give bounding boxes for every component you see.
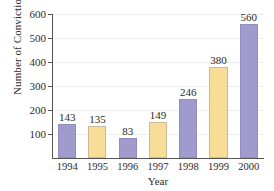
x-axis-title: Year xyxy=(52,175,264,187)
bar: 149 xyxy=(149,122,167,158)
x-tick-label: 1998 xyxy=(178,161,199,172)
gridline xyxy=(52,86,264,87)
bar-value-label: 143 xyxy=(59,111,76,123)
bar: 135 xyxy=(88,126,106,158)
x-tick-label: 1994 xyxy=(57,161,78,172)
y-tick-label: 500 xyxy=(30,32,47,44)
bar: 83 xyxy=(119,138,137,158)
gridline xyxy=(52,62,264,63)
y-tick-label: 300 xyxy=(30,80,47,92)
y-axis-line xyxy=(52,14,53,158)
bar: 380 xyxy=(209,67,227,158)
x-tick-label: 1999 xyxy=(208,161,229,172)
x-axis-line xyxy=(52,158,264,159)
bar-value-label: 149 xyxy=(150,109,167,121)
y-axis-title: Number of Convictions xyxy=(11,0,23,107)
bar: 246 xyxy=(179,99,197,158)
bar-chart-figure: Number of Convictions 100200300400500600… xyxy=(0,0,274,191)
y-tick-label: 100 xyxy=(30,128,47,140)
bar: 560 xyxy=(240,24,258,158)
bar-value-label: 380 xyxy=(210,54,227,66)
gridline xyxy=(52,14,264,15)
y-tick-label: 400 xyxy=(30,56,47,68)
y-tick-label: 600 xyxy=(30,8,47,20)
bar-value-label: 560 xyxy=(241,11,258,23)
x-tick-label: 1997 xyxy=(148,161,169,172)
y-tick-label: 200 xyxy=(30,104,47,116)
bar: 143 xyxy=(58,124,76,158)
bar-value-label: 246 xyxy=(180,86,197,98)
gridline xyxy=(52,38,264,39)
x-tick-label: 1995 xyxy=(87,161,108,172)
plot-area: 100200300400500600 14313583149246380560 … xyxy=(52,14,264,158)
bar-value-label: 135 xyxy=(89,113,106,125)
bar-value-label: 83 xyxy=(122,125,133,137)
x-tick-label: 2000 xyxy=(238,161,259,172)
x-tick-label: 1996 xyxy=(117,161,138,172)
